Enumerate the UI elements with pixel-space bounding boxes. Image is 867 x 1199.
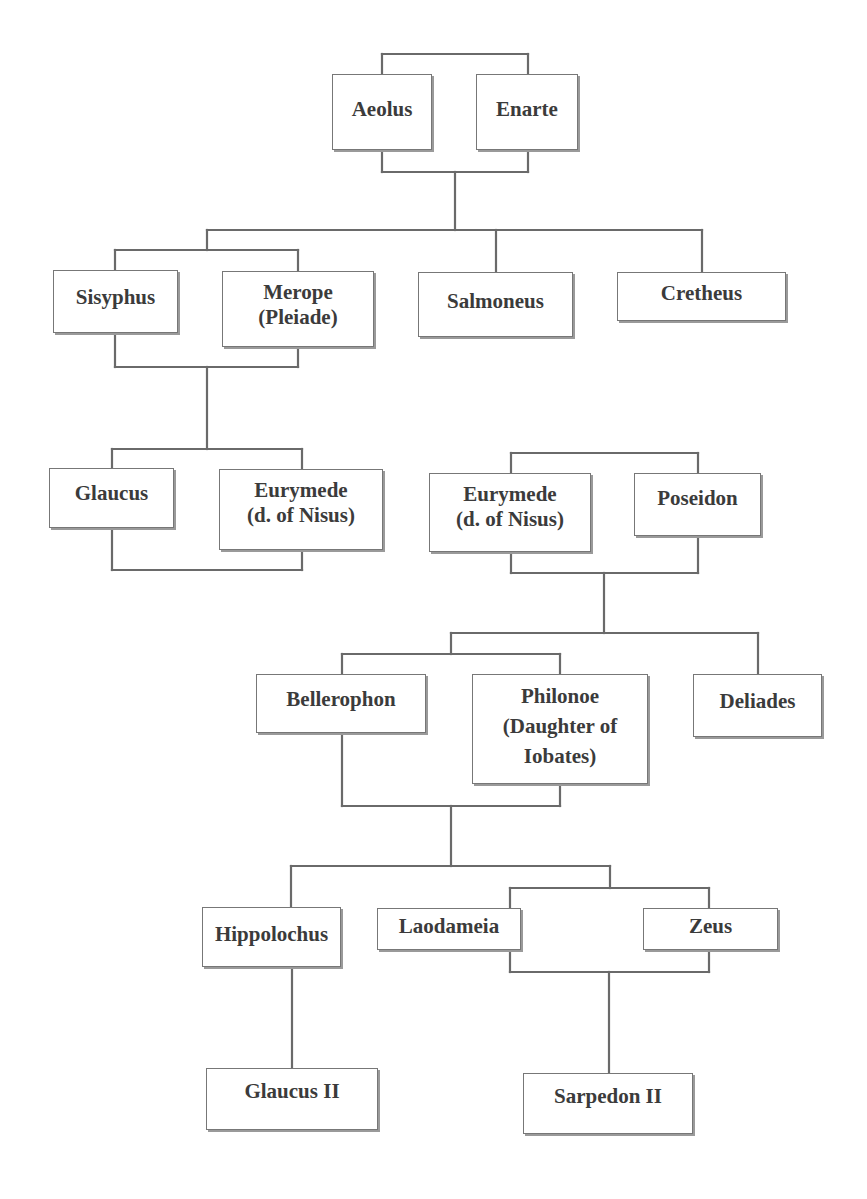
person-glaucus-ii: Glaucus II (206, 1068, 378, 1130)
person-label: Poseidon (657, 486, 738, 511)
person-philonoe: Philonoe (Daughter of Iobates) (472, 674, 648, 784)
person-sarpedon-ii: Sarpedon II (523, 1073, 693, 1134)
person-label: Enarte (496, 97, 558, 122)
person-label: Deliades (720, 689, 796, 714)
person-glaucus: Glaucus (49, 468, 174, 528)
person-label: Eurymede (d. of Nisus) (247, 478, 355, 528)
person-label: Sisyphus (76, 285, 155, 310)
person-label: Bellerophon (286, 687, 395, 712)
person-label: Glaucus (75, 481, 149, 506)
person-sisyphus: Sisyphus (53, 270, 178, 333)
person-zeus: Zeus (643, 908, 778, 950)
person-label: Cretheus (661, 281, 742, 306)
person-label: Sarpedon II (554, 1084, 662, 1109)
person-bellerophon: Bellerophon (256, 674, 426, 733)
person-label: Eurymede (d. of Nisus) (456, 482, 564, 532)
person-laodameia: Laodameia (377, 908, 521, 950)
person-aeolus: Aeolus (332, 74, 432, 150)
person-label: Zeus (689, 914, 732, 939)
person-salmoneus: Salmoneus (418, 272, 573, 337)
person-cretheus: Cretheus (617, 272, 786, 321)
connector-lines (0, 0, 867, 1199)
person-eurymede-daughter-of-nisus-2: Eurymede (d. of Nisus) (429, 473, 591, 552)
person-deliades: Deliades (693, 674, 822, 737)
person-enarte: Enarte (476, 74, 578, 150)
person-merope: Merope (Pleiade) (222, 271, 374, 347)
person-label: Hippolochus (215, 922, 328, 947)
person-label: Laodameia (399, 914, 499, 939)
person-label: Glaucus II (244, 1079, 339, 1104)
person-label: Salmoneus (447, 289, 544, 314)
person-poseidon: Poseidon (634, 473, 761, 536)
person-label: Merope (Pleiade) (258, 280, 337, 330)
person-hippolochus: Hippolochus (202, 907, 341, 967)
person-label: Aeolus (352, 97, 413, 122)
person-eurymede-daughter-of-nisus: Eurymede (d. of Nisus) (219, 469, 383, 550)
person-label: Philonoe (Daughter of Iobates) (503, 681, 618, 771)
